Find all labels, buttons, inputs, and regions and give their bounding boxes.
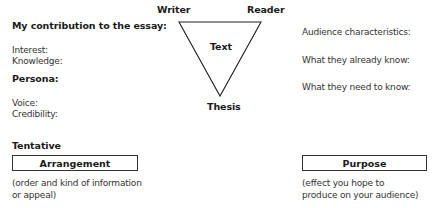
purpose-note-line1: (effect you hope to xyxy=(302,178,384,188)
reader-label: Reader xyxy=(247,4,285,15)
purpose-note-line2: produce on your audience) xyxy=(302,190,418,200)
arrangement-box: Arrangement xyxy=(12,155,138,171)
need-to-know-label: What they need to know: xyxy=(302,82,410,92)
audience-characteristics-label: Audience characteristics: xyxy=(302,27,411,37)
writer-label: Writer xyxy=(157,4,190,15)
persona-heading: Persona: xyxy=(12,73,58,84)
already-know-label: What they already know: xyxy=(302,55,410,65)
credibility-label: Credibility: xyxy=(12,109,58,119)
contribution-heading: My contribution to the essay: xyxy=(12,20,167,31)
knowledge-label: Knowledge: xyxy=(12,56,63,66)
tentative-label: Tentative xyxy=(12,140,61,151)
interest-label: Interest: xyxy=(12,45,48,55)
purpose-box: Purpose xyxy=(302,155,427,171)
arrangement-label: Arrangement xyxy=(40,158,111,169)
text-label: Text xyxy=(210,41,232,52)
voice-label: Voice: xyxy=(12,98,38,108)
arrangement-note-line2: or appeal) xyxy=(12,190,56,200)
purpose-label: Purpose xyxy=(343,158,387,169)
thesis-label: Thesis xyxy=(207,101,241,112)
arrangement-note-line1: (order and kind of information xyxy=(12,178,142,188)
